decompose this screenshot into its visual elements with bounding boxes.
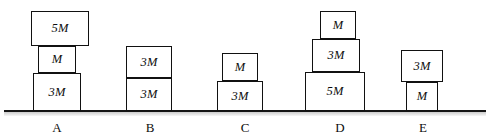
block-e-2: M [406, 82, 438, 111]
block-a-3: 3M [33, 73, 81, 111]
stack-label-e: E [403, 120, 443, 136]
stack-label-a: A [37, 120, 77, 136]
block-d-2: 3M [312, 39, 360, 72]
block-mass-label: 3M [48, 86, 65, 99]
block-mass-label: 3M [327, 49, 344, 62]
block-b-2: 3M [126, 78, 172, 111]
stack-label-d: D [320, 120, 360, 136]
stack-label-c: C [225, 120, 265, 136]
stack-label-b: B [130, 120, 170, 136]
block-c-2: 3M [217, 81, 263, 111]
block-d-1: M [320, 11, 356, 39]
block-mass-label: M [52, 53, 63, 66]
block-c-1: M [222, 53, 258, 81]
ground-shadow [4, 112, 486, 116]
block-mass-label: M [417, 90, 428, 103]
block-a-1: 5M [31, 11, 89, 46]
block-mass-label: M [235, 61, 246, 74]
block-mass-label: M [333, 19, 344, 32]
block-mass-label: 5M [326, 85, 343, 98]
block-mass-label: 3M [140, 56, 157, 69]
block-stacks-figure: 5MM3MA3M3MBM3MCM3M5MD3MME [0, 0, 490, 139]
block-e-1: 3M [401, 50, 443, 82]
block-b-1: 3M [126, 46, 172, 78]
block-mass-label: 3M [140, 88, 157, 101]
block-mass-label: 3M [231, 90, 248, 103]
block-mass-label: 5M [51, 22, 68, 35]
block-d-3: 5M [305, 72, 365, 111]
block-a-2: M [38, 46, 76, 73]
block-mass-label: 3M [413, 60, 430, 73]
